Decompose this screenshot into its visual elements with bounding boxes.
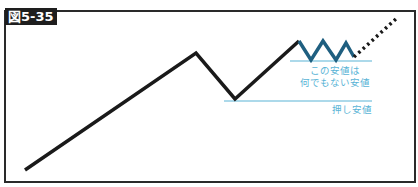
range-zigzag-line — [299, 41, 354, 60]
figure-label: 図5-35 — [5, 8, 57, 25]
pullback-low-caption: 押し安値 — [330, 104, 372, 116]
range-low-caption-line2: 何でもない安値 — [294, 77, 376, 89]
price-diagram — [0, 0, 418, 187]
range-low-caption-line1: この安値は — [294, 65, 376, 77]
range-low-caption: この安値は 何でもない安値 — [294, 65, 376, 89]
projected-dotted-line — [354, 18, 397, 57]
price-path-line — [25, 41, 299, 170]
